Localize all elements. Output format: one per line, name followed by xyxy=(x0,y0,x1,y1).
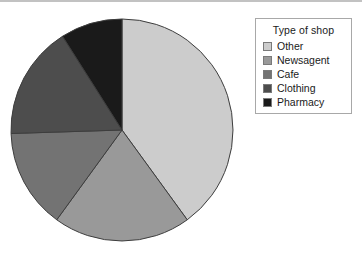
legend-item-newsagent[interactable]: Newsagent xyxy=(256,53,351,67)
legend-swatch-other xyxy=(263,42,272,51)
legend-swatch-newsagent xyxy=(263,56,272,65)
legend-swatch-cafe xyxy=(263,70,272,79)
legend: Type of shop Other Newsagent Cafe Clothi… xyxy=(255,18,352,114)
pie-chart xyxy=(10,18,234,242)
legend-label-cafe: Cafe xyxy=(277,68,299,80)
legend-item-other[interactable]: Other xyxy=(256,39,351,53)
legend-title: Type of shop xyxy=(256,23,351,39)
legend-swatch-pharmacy xyxy=(263,98,272,107)
legend-item-cafe[interactable]: Cafe xyxy=(256,67,351,81)
legend-label-pharmacy: Pharmacy xyxy=(277,96,324,108)
legend-label-other: Other xyxy=(277,40,303,52)
legend-item-clothing[interactable]: Clothing xyxy=(256,81,351,95)
pie-chart-svg xyxy=(10,18,234,242)
chart-canvas: Type of shop Other Newsagent Cafe Clothi… xyxy=(0,0,362,258)
legend-label-newsagent: Newsagent xyxy=(277,54,330,66)
legend-item-pharmacy[interactable]: Pharmacy xyxy=(256,95,351,109)
legend-label-clothing: Clothing xyxy=(277,82,316,94)
legend-swatch-clothing xyxy=(263,84,272,93)
pie-slice-group xyxy=(11,19,233,241)
